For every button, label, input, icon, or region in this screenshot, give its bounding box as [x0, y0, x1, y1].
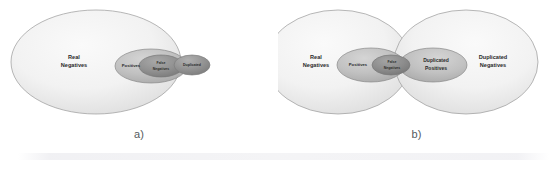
label-real-negatives-line2: Negatives: [61, 62, 87, 68]
label-real-negatives-line2: Negatives: [303, 62, 329, 68]
caption-panel-b: b): [278, 128, 555, 140]
label-real-negatives-line1: Real: [68, 54, 80, 60]
label-real-negatives-line1: Real: [310, 54, 322, 60]
label-false-negatives-line1: False: [388, 60, 397, 64]
label-duplicated-positives-line1: Duplicated: [423, 57, 449, 63]
label-duplicated-positives-line2: Positives: [425, 65, 447, 71]
label-duplicated-negatives-line1: Duplicated: [479, 54, 508, 60]
label-false-negatives-line2: Negatives: [384, 66, 401, 70]
label-duplicated-negatives-line2: Negatives: [480, 62, 506, 68]
caption-panel-a: a): [0, 128, 278, 140]
panel-a: Real Negatives Positives False Negatives…: [0, 0, 278, 170]
panel-a-diagram: Real Negatives Positives False Negatives…: [0, 0, 278, 170]
label-false-negatives-line1: False: [157, 61, 166, 65]
label-false-negatives-line2: Negatives: [153, 67, 170, 71]
label-positives: Positives: [122, 63, 141, 68]
panel-b: Real Negatives Positives False Negatives…: [278, 0, 555, 170]
panel-b-diagram: Real Negatives Positives False Negatives…: [278, 0, 555, 170]
label-duplicated: Duplicated: [183, 63, 201, 67]
label-positives: Positives: [349, 62, 368, 67]
figure-canvas: Real Negatives Positives False Negatives…: [0, 0, 555, 170]
bottom-divider-band: [18, 153, 549, 160]
